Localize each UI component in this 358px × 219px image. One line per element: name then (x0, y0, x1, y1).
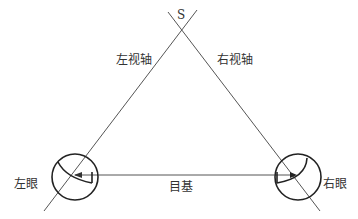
right-eye-label: 右眼 (323, 177, 347, 191)
left-eye-icon (52, 154, 98, 200)
apex-label: S (177, 8, 185, 22)
right-eye-icon (275, 154, 321, 200)
right-visual-axis-label: 右视轴 (217, 53, 253, 67)
left-visual-axis-label: 左视轴 (116, 53, 152, 67)
baseline-label: 目基 (169, 180, 193, 194)
left-eye-label: 左眼 (14, 177, 38, 191)
